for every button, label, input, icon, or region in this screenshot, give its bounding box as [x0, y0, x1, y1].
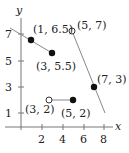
y-tick-label-5: 5	[5, 55, 12, 68]
point-5-2-filled	[70, 97, 76, 103]
annotation-3-5.5: (3, 5.5)	[36, 60, 76, 73]
x-tick-label-6: 6	[80, 133, 87, 146]
annotation-3-2: (3, 2)	[25, 103, 55, 116]
y-axis-label: y	[15, 4, 23, 17]
annotation-7-3: (7, 3)	[97, 73, 127, 86]
point-3-5.5-filled	[49, 50, 55, 56]
x-tick-label-2: 2	[38, 133, 45, 146]
x-tick-label-8: 8	[100, 133, 107, 146]
annotation-5-2: (5, 2)	[61, 107, 91, 120]
y-tick-label-7: 7	[5, 28, 12, 41]
annotation-5-7: (5, 7)	[77, 19, 107, 32]
x-tick-label-4: 4	[59, 133, 66, 146]
point-1-6.5-filled	[28, 37, 34, 43]
piecewise-graph: y x 7 5 3 1 2 4 6 8 (1, 6.5) (3, 5.5) (5…	[0, 0, 129, 153]
x-axis-label: x	[115, 120, 122, 133]
y-tick-label-1: 1	[5, 107, 12, 120]
segment-3-line	[72, 31, 105, 113]
annotation-1-6.5: (1, 6.5)	[33, 23, 73, 36]
y-tick-label-3: 3	[5, 81, 12, 94]
